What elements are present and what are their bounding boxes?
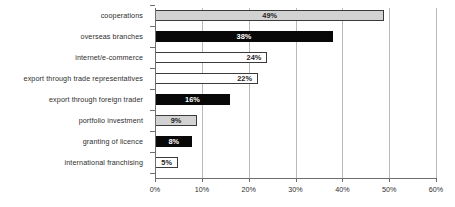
y-tick-mark	[150, 5, 155, 6]
gridline-40pct	[342, 8, 343, 178]
x-tick-mark	[296, 178, 297, 182]
bar-value-label: 16%	[155, 94, 230, 105]
bar-value-label: 9%	[155, 115, 197, 126]
y-tick-mark	[150, 152, 155, 153]
y-tick-mark	[150, 47, 155, 48]
y-tick-mark	[150, 89, 155, 90]
y-tick-mark	[150, 173, 155, 174]
category-label: granting of licence	[83, 136, 143, 147]
x-axis-tick-label: 50%	[382, 185, 396, 194]
x-axis-tick-label: 30%	[288, 185, 302, 194]
category-label: cooperations	[101, 10, 143, 21]
y-tick-mark	[150, 110, 155, 111]
bar-value-label: 38%	[155, 31, 333, 42]
x-tick-mark	[436, 178, 437, 182]
x-tick-mark	[342, 178, 343, 182]
x-axis-tick-label: 60%	[429, 185, 443, 194]
x-tick-mark	[155, 178, 156, 182]
x-axis-tick-label: 40%	[335, 185, 349, 194]
bar-value-label: 22%	[155, 73, 252, 84]
bar-chart: cooperationsoverseas branchesinternet/e-…	[0, 0, 455, 207]
x-tick-mark	[202, 178, 203, 182]
x-axis-tick-label: 0%	[150, 185, 160, 194]
plot-area: 49%38%24%22%16%9%8%5%	[155, 8, 436, 178]
category-label: overseas branches	[81, 31, 143, 42]
bar-value-label: 8%	[155, 136, 192, 147]
category-axis-labels: cooperationsoverseas branchesinternet/e-…	[0, 8, 147, 178]
y-tick-mark	[150, 26, 155, 27]
y-tick-mark	[150, 68, 155, 69]
bar-value-label: 49%	[155, 10, 384, 21]
bar-value-label: 5%	[155, 157, 178, 168]
y-tick-mark	[150, 131, 155, 132]
category-label: export through trade representatives	[24, 73, 143, 84]
category-label: international franchising	[65, 157, 143, 168]
bar-value-label: 24%	[155, 52, 261, 63]
gridline-60pct	[436, 8, 437, 178]
category-label: export through foreign trader	[49, 94, 143, 105]
gridline-50pct	[389, 8, 390, 178]
x-tick-mark	[249, 178, 250, 182]
x-tick-mark	[389, 178, 390, 182]
y-axis-line	[155, 8, 156, 178]
x-axis-tick-label: 20%	[241, 185, 255, 194]
category-label: internet/e-commerce	[75, 52, 143, 63]
category-label: portfolio investment	[79, 115, 143, 126]
x-axis-tick-label: 10%	[195, 185, 209, 194]
